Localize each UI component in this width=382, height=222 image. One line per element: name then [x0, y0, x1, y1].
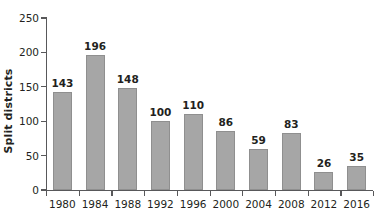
bar-value-label: 110 [182, 99, 204, 111]
y-axis-tick [41, 52, 46, 53]
bar-value-label: 196 [84, 40, 106, 52]
plot-area: 050100150200250 198019841988199219962000… [0, 0, 382, 222]
bar [314, 172, 333, 190]
x-axis-tick [275, 191, 276, 196]
x-axis-tick [111, 191, 112, 196]
bar-value-label: 26 [317, 157, 332, 169]
y-axis-tick [41, 121, 46, 122]
bar-value-label: 83 [284, 118, 299, 130]
y-axis-tick-label: 250 [19, 12, 39, 24]
y-axis-tick-label: 50 [26, 150, 39, 162]
bar-chart-figure: Split districts 050100150200250 19801984… [0, 0, 382, 222]
x-axis-tick-label: 2016 [343, 198, 370, 210]
bar-value-label: 35 [349, 151, 364, 163]
y-axis-tick [41, 155, 46, 156]
y-axis-tick-label: 200 [19, 46, 39, 58]
x-axis-tick [46, 191, 47, 196]
bar [53, 92, 72, 190]
x-axis-tick-label: 1988 [114, 198, 141, 210]
x-axis-tick [144, 191, 145, 196]
y-axis-line [46, 17, 47, 191]
x-axis-tick-label: 1996 [180, 198, 207, 210]
x-axis-tick [340, 191, 341, 196]
bar-value-label: 59 [251, 134, 266, 146]
x-axis-tick-label: 1984 [82, 198, 109, 210]
x-axis-tick [308, 191, 309, 196]
x-axis-tick-label: 1980 [49, 198, 76, 210]
bar-value-label: 86 [219, 116, 234, 128]
bar-value-label: 143 [51, 77, 73, 89]
x-axis-tick-label: 2000 [212, 198, 239, 210]
bar [86, 55, 105, 190]
y-axis-tick-label: 0 [32, 184, 39, 196]
bar-value-label: 148 [117, 73, 139, 85]
y-axis-tick-label: 100 [19, 115, 39, 127]
x-axis-tick-label: 2012 [311, 198, 338, 210]
bar [216, 131, 235, 190]
bar [347, 166, 366, 190]
bar [118, 88, 137, 190]
bar [184, 114, 203, 190]
x-axis-tick-label: 2008 [278, 198, 305, 210]
x-axis-tick [373, 191, 374, 196]
y-axis-tick [41, 86, 46, 87]
x-axis-tick [210, 191, 211, 196]
bar [282, 133, 301, 190]
y-axis-tick-label: 150 [19, 81, 39, 93]
bar-value-label: 100 [149, 106, 171, 118]
bar [151, 121, 170, 190]
x-axis-tick [79, 191, 80, 196]
y-axis-tick [41, 17, 46, 18]
x-axis-tick [242, 191, 243, 196]
x-axis-tick-label: 2004 [245, 198, 272, 210]
x-axis-tick [177, 191, 178, 196]
x-axis-tick-label: 1992 [147, 198, 174, 210]
bar [249, 149, 268, 190]
